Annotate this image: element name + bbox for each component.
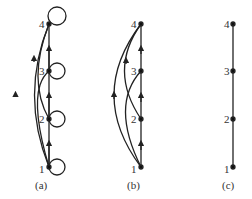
hasse-diagram-figure: 4 3 2 1 (a) 4 3 2 1 (b) 4 3 2 1 (c) — [0, 0, 252, 199]
node-label-3: 3 — [39, 65, 45, 77]
node-label-2: 2 — [224, 113, 230, 125]
node-label-1: 1 — [39, 163, 45, 175]
panel-a — [16, 7, 67, 175]
node-label-1: 1 — [131, 163, 137, 175]
node-label-4: 4 — [131, 18, 137, 30]
panel-b — [114, 22, 143, 169]
node-label-4: 4 — [39, 18, 45, 30]
panel-c — [231, 22, 235, 169]
node-label-2: 2 — [39, 113, 45, 125]
node-label-3: 3 — [224, 65, 230, 77]
node-label-1: 1 — [224, 163, 230, 175]
node-label-3: 3 — [131, 65, 137, 77]
caption-b: (b) — [127, 179, 140, 192]
caption-c: (c) — [222, 179, 235, 192]
caption-a: (a) — [35, 179, 48, 192]
node-label-2: 2 — [131, 113, 137, 125]
node-label-4: 4 — [224, 18, 230, 30]
